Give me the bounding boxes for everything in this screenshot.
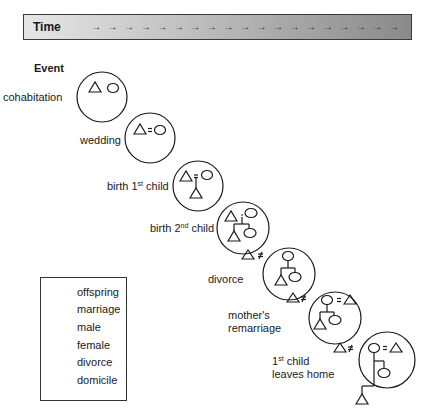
domicile-circle-icon xyxy=(217,202,269,254)
legend-offspring-label: offspring xyxy=(77,286,119,298)
child-triangle-icon xyxy=(190,188,202,198)
event-birth-1st-child-domicile xyxy=(173,161,223,211)
event-birth-2nd-child-domicile xyxy=(217,202,269,254)
domicile-circle-icon xyxy=(359,332,415,388)
child-female-ellipse-icon xyxy=(244,229,256,238)
legend-domicile-label: domicile xyxy=(77,374,117,386)
divorce-icon xyxy=(349,345,352,352)
event-cohabitation-domicile xyxy=(77,72,127,122)
male-triangle-icon xyxy=(89,82,101,92)
female-ellipse-icon xyxy=(108,84,119,93)
domicile-circle-icon xyxy=(263,248,315,300)
female-ellipse-icon xyxy=(369,344,380,353)
legend-male-label: male xyxy=(77,321,101,333)
legend-divorce-label: divorce xyxy=(77,356,112,368)
child-triangle-icon xyxy=(314,319,326,329)
male-triangle-icon xyxy=(134,124,146,134)
domicile-circle-icon xyxy=(125,113,175,163)
male-triangle-icon xyxy=(180,171,192,181)
child-female-ellipse-icon xyxy=(378,369,390,378)
legend-marriage-label: marriage xyxy=(77,303,120,315)
event-first-child-leaves-home xyxy=(334,332,415,404)
event-mothers-remarriage xyxy=(287,292,361,344)
event-wedding-domicile xyxy=(125,113,175,163)
female-ellipse-icon xyxy=(322,296,333,305)
stepfather-triangle-icon xyxy=(390,343,402,352)
male-triangle-icon xyxy=(225,211,237,221)
departed-child-triangle-icon xyxy=(356,394,368,404)
child-triangle-icon xyxy=(275,275,287,285)
female-ellipse-icon xyxy=(202,171,213,180)
departed-male-triangle-icon xyxy=(287,293,299,302)
event-divorce xyxy=(242,248,315,300)
legend: offspring marriage male female divorce d… xyxy=(40,277,127,401)
divorce-icon xyxy=(259,252,262,259)
child-female-ellipse-icon xyxy=(289,273,301,282)
female-ellipse-icon xyxy=(283,252,294,261)
legend-female-label: female xyxy=(77,339,110,351)
child-female-ellipse-icon xyxy=(329,316,341,325)
domicile-circle-icon xyxy=(173,161,223,211)
domicile-circle-icon xyxy=(77,72,127,122)
female-ellipse-icon xyxy=(245,209,257,218)
female-ellipse-icon xyxy=(155,126,166,135)
child-triangle-icon xyxy=(228,231,240,241)
